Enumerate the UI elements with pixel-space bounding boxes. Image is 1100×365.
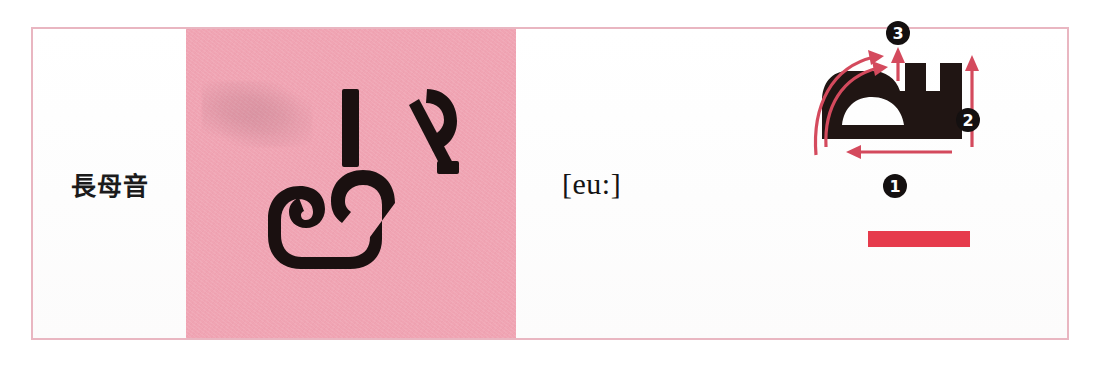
stroke-number-3-text: 3 <box>892 24 903 43</box>
stroke-1-arrow <box>846 145 952 159</box>
vowel-reference-card: 長母音 <box>31 27 1069 340</box>
stroke-3-arrow <box>891 47 905 81</box>
rotated-glyph-group <box>241 71 471 301</box>
highlighted-glyph-panel <box>186 29 516 338</box>
stroke-order-diagram: 1 2 3 <box>802 35 992 240</box>
glyph-leading-vowel-sai <box>409 89 459 174</box>
stroke-order-cell: 1 2 3 <box>778 29 1068 338</box>
ipa-transcription-cell: [eu:] <box>516 29 796 338</box>
stroke-number-3: 3 <box>886 21 910 45</box>
glyph-consonant-placeholder-dash <box>342 89 359 167</box>
stroke-number-1-text: 1 <box>889 177 900 196</box>
stroke-number-1: 1 <box>883 174 907 198</box>
red-baseline-marker <box>868 231 970 247</box>
thai-vowel-glyph <box>241 71 471 301</box>
ipa-transcription-text: [eu:] <box>516 167 621 201</box>
glyph-trailing-o-ang <box>268 170 395 269</box>
stroke-number-2-text: 2 <box>962 111 973 130</box>
category-label-text: 長母音 <box>71 166 149 202</box>
category-label-cell: 長母音 <box>33 29 186 338</box>
stroke-2-arrow <box>965 55 979 147</box>
stroke-number-2: 2 <box>956 108 980 132</box>
